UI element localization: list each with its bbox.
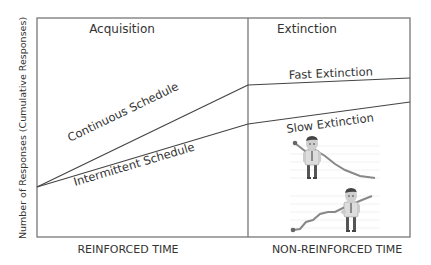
businessman-declining-chart-icon	[290, 136, 380, 179]
continuous-schedule-label: Continuous Schedule	[65, 79, 180, 144]
cumulative-response-diagram: Acquisition Extinction Continuous Schedu…	[0, 0, 431, 265]
extinction-title: Extinction	[277, 22, 337, 36]
slow-extinction-label: Slow Extinction	[286, 110, 375, 136]
acquisition-title: Acquisition	[89, 22, 155, 36]
reinforced-time-label: REINFORCED TIME	[77, 243, 178, 256]
non-reinforced-time-label: NON-REINFORCED TIME	[272, 243, 402, 256]
fast-extinction-label: Fast Extinction	[289, 64, 374, 82]
intermittent-schedule-label: Intermittent Schedule	[72, 140, 196, 189]
y-axis-label: Number of Responses (Cumulative Response…	[17, 17, 28, 239]
businessman-rising-chart-icon	[290, 188, 380, 232]
